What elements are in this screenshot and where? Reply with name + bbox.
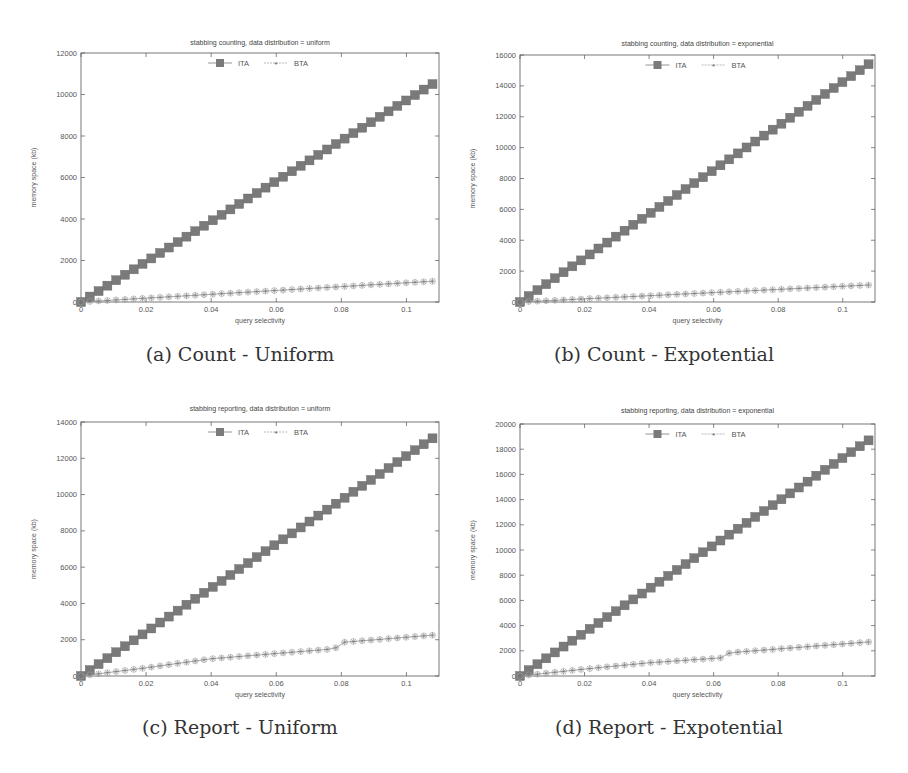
series-ita xyxy=(516,60,874,307)
y-tick-label: 14000 xyxy=(56,418,77,427)
panel-d: stabbing reporting, data distribution = … xyxy=(454,386,908,773)
caption-d: (d) Report - Expotential xyxy=(534,716,804,738)
x-axis-label: query selectivity xyxy=(235,317,285,325)
x-tick-label: 0.02 xyxy=(139,679,154,688)
x-tick-label: 0.02 xyxy=(139,305,154,314)
y-tick-label: 4000 xyxy=(60,599,77,608)
y-tick-label: 12000 xyxy=(56,49,77,58)
legend-ita-marker xyxy=(654,61,662,69)
y-tick-label: 20000 xyxy=(495,420,516,429)
series-ita xyxy=(516,436,874,681)
x-axis-label: query selectivity xyxy=(673,317,723,325)
y-tick-label: 12000 xyxy=(495,520,516,529)
y-tick-label: 10000 xyxy=(56,490,77,499)
legend-ita-label: ITA xyxy=(238,59,249,68)
chart-c: stabbing reporting, data distribution = … xyxy=(0,386,454,773)
x-tick-label: 0.06 xyxy=(706,305,721,314)
y-tick-label: 10000 xyxy=(495,143,516,152)
y-tick-label: 16000 xyxy=(495,51,516,60)
legend-bta-marker: * xyxy=(275,429,278,438)
legend-bta-label: BTA xyxy=(294,59,308,68)
series-ita xyxy=(77,434,437,681)
x-tick-label: 0.1 xyxy=(838,679,848,688)
legend-ita-marker xyxy=(216,59,224,67)
legend-bta-label: BTA xyxy=(732,61,746,70)
x-tick-label: 0.04 xyxy=(642,305,657,314)
y-tick-label: 2000 xyxy=(499,267,516,276)
chart-title: stabbing counting, data distribution = e… xyxy=(622,40,774,48)
legend-bta-marker: * xyxy=(712,62,715,71)
legend-ita-marker xyxy=(654,430,662,438)
y-axis-label: memory space (kb) xyxy=(469,149,477,209)
x-tick-label: 0.1 xyxy=(838,305,848,314)
chart-title: stabbing reporting, data distribution = … xyxy=(190,405,331,413)
x-tick-label: 0.08 xyxy=(771,305,786,314)
y-tick-label: 10000 xyxy=(495,546,516,555)
legend-ita-label: ITA xyxy=(238,428,249,437)
y-tick-label: 4000 xyxy=(60,215,77,224)
y-tick-label: 4000 xyxy=(499,621,516,630)
y-tick-label: 8000 xyxy=(60,132,77,141)
y-tick-label: 2000 xyxy=(499,646,516,655)
y-tick-label: 14000 xyxy=(495,81,516,90)
x-tick-label: 0.06 xyxy=(269,679,284,688)
chart-a: stabbing counting, data distribution = u… xyxy=(0,0,454,386)
caption-b: (b) Count - Expotential xyxy=(534,343,794,365)
chart-title: stabbing reporting, data distribution = … xyxy=(621,407,775,415)
y-tick-label: 6000 xyxy=(499,596,516,605)
x-tick-label: 0.08 xyxy=(334,305,349,314)
y-tick-label: 8000 xyxy=(60,526,77,535)
y-tick-label: 12000 xyxy=(495,112,516,121)
chart-d: stabbing reporting, data distribution = … xyxy=(454,386,908,773)
y-tick-label: 6000 xyxy=(60,173,77,182)
y-axis-label: memory space (kb) xyxy=(469,520,477,580)
chart-b: stabbing counting, data distribution = e… xyxy=(454,0,908,386)
legend-bta-label: BTA xyxy=(732,430,746,439)
y-tick-label: 10000 xyxy=(56,90,77,99)
x-tick-label: 0.1 xyxy=(401,679,411,688)
x-tick-label: 0.04 xyxy=(642,679,657,688)
legend-bta-marker: * xyxy=(712,431,715,440)
y-axis-label: memory space (kb) xyxy=(30,519,38,579)
legend-ita-label: ITA xyxy=(676,430,687,439)
x-tick-label: 0.02 xyxy=(577,305,592,314)
y-tick-label: 14000 xyxy=(495,495,516,504)
x-axis-label: query selectivity xyxy=(235,691,285,699)
x-tick-label: 0.02 xyxy=(577,679,592,688)
panel-a: stabbing counting, data distribution = u… xyxy=(0,0,454,386)
caption-c: (c) Report - Uniform xyxy=(130,716,350,738)
series-bta xyxy=(517,282,872,305)
x-tick-label: 0.08 xyxy=(334,679,349,688)
x-tick-label: 0.08 xyxy=(771,679,786,688)
y-tick-label: 12000 xyxy=(56,454,77,463)
series-bta xyxy=(78,278,435,305)
legend-ita-label: ITA xyxy=(676,61,687,70)
x-axis-label: query selectivity xyxy=(673,691,723,699)
x-tick-label: 0.04 xyxy=(204,305,219,314)
legend-ita-marker xyxy=(216,428,224,436)
y-tick-label: 18000 xyxy=(495,445,516,454)
x-tick-label: 0.06 xyxy=(706,679,721,688)
y-tick-label: 16000 xyxy=(495,470,516,479)
panel-c: stabbing reporting, data distribution = … xyxy=(0,386,454,773)
y-tick-label: 8000 xyxy=(499,174,516,183)
x-tick-label: 0.1 xyxy=(401,305,411,314)
y-tick-label: 6000 xyxy=(499,205,516,214)
series-ita xyxy=(77,80,437,307)
y-tick-label: 8000 xyxy=(499,571,516,580)
y-tick-label: 6000 xyxy=(60,563,77,572)
y-tick-label: 4000 xyxy=(499,236,516,245)
panel-b: stabbing counting, data distribution = e… xyxy=(454,0,908,386)
y-tick-label: 2000 xyxy=(60,256,77,265)
legend-bta-label: BTA xyxy=(294,428,308,437)
chart-title: stabbing counting, data distribution = u… xyxy=(190,39,330,47)
x-tick-label: 0.04 xyxy=(204,679,219,688)
y-tick-label: 2000 xyxy=(60,635,77,644)
caption-a: (a) Count - Uniform xyxy=(140,343,340,365)
y-axis-label: memory space (kb) xyxy=(30,148,38,208)
legend-bta-marker: * xyxy=(275,60,278,69)
x-tick-label: 0.06 xyxy=(269,305,284,314)
